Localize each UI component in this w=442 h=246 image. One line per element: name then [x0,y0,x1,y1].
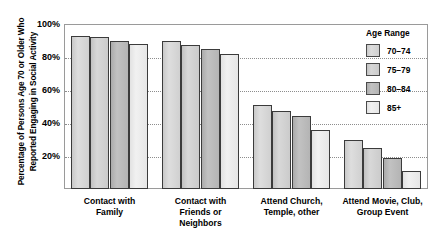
bar [162,41,181,190]
legend-label: 75–79 [387,65,410,75]
bar [110,41,129,190]
legend-swatch-shadow [369,81,383,84]
bar-shadow [204,47,223,51]
bar [129,44,148,189]
y-tick-label-80: 80% [22,52,60,62]
bar [311,130,330,189]
bar [201,49,220,189]
bar-shadow [275,109,294,113]
legend: Age Range 70–7475–7980–8485+ [366,28,440,118]
bar [272,111,291,189]
legend-item[interactable]: 80–84 [366,80,440,97]
bar [344,140,363,190]
bar [71,36,90,189]
legend-label: 80–84 [387,84,410,94]
bar [90,37,109,189]
legend-label: 70–74 [387,46,410,56]
legend-item[interactable]: 70–74 [366,42,440,59]
legend-label: 85+ [387,103,401,113]
legend-title: Age Range [366,28,440,38]
bar-shadow [366,146,385,150]
bar [181,45,200,189]
bar-shadow [113,39,132,43]
bar-shadow [347,138,366,142]
legend-swatch-icon [366,82,380,95]
bar [402,171,421,189]
y-tick-label-40: 40% [22,118,60,128]
bar-shadow [184,43,203,47]
legend-item[interactable]: 85+ [366,99,440,116]
bar [253,105,272,189]
legend-swatch-shadow [369,43,383,46]
bar [220,54,239,189]
bar-shadow [386,156,405,160]
bar-shadow [223,52,242,56]
bar-shadow [405,169,424,173]
bar-shadow [165,39,184,43]
legend-swatch-icon [366,63,380,76]
bar-group [71,24,149,189]
bar-shadow [93,35,112,39]
y-tick-label-20: 20% [22,151,60,161]
legend-item[interactable]: 75–79 [366,61,440,78]
legend-swatch-shadow [369,62,383,65]
x-axis-label: Attend Movie, Club, Group Event [327,196,438,218]
bar-shadow [256,103,275,107]
bar-group [162,24,240,189]
bar-shadow [132,42,151,46]
bar-shadow [314,128,333,132]
bar-group [253,24,331,189]
bar-shadow [295,114,314,118]
bar [363,148,382,189]
legend-swatch-icon [366,101,380,114]
bar [383,158,402,189]
legend-swatch-shadow [369,100,383,103]
y-tick-label-60: 60% [22,85,60,95]
legend-swatch-icon [366,44,380,57]
bar-chart: Percentage of Persons Age 70 or Older Wh… [0,0,442,246]
legend-items: 70–7475–7980–8485+ [366,42,440,116]
y-tick-label-100: 100% [22,19,60,29]
bar [292,116,311,189]
